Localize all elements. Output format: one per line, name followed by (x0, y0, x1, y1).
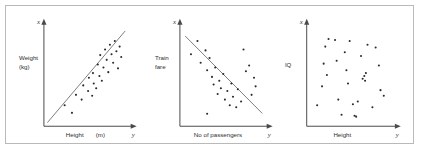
y-axis-tag: x (172, 18, 177, 26)
data-point (248, 64, 250, 66)
data-point (64, 104, 66, 106)
data-points-group (64, 40, 123, 114)
data-point (326, 74, 328, 76)
data-point (112, 62, 114, 64)
data-point (378, 64, 380, 66)
data-point (375, 47, 377, 49)
data-point (341, 114, 343, 116)
data-point (119, 46, 121, 48)
chart-weight-vs-height: x y Weight (kg) Height (m) (6, 6, 142, 143)
data-point (224, 99, 226, 101)
data-point (82, 84, 84, 86)
data-point (321, 85, 323, 87)
x-axis-label: Height (334, 131, 352, 138)
data-point (107, 71, 109, 73)
data-point (222, 73, 224, 75)
data-point (355, 116, 357, 118)
data-point (253, 77, 255, 79)
data-point (336, 60, 338, 62)
x-axis-tag: y (395, 131, 400, 138)
x-axis-arrow-icon (131, 124, 137, 129)
figure-panel: x y Weight (kg) Height (m) x y (5, 5, 414, 144)
data-point (93, 82, 95, 84)
data-point (346, 69, 348, 71)
data-point (380, 89, 382, 91)
data-point (242, 48, 244, 50)
data-point (216, 93, 218, 95)
y-axis-arrow-icon (41, 19, 46, 25)
data-point (347, 82, 349, 84)
data-point (88, 77, 90, 79)
data-point (230, 82, 232, 84)
data-point (95, 87, 97, 89)
x-axis-arrow-icon (395, 124, 401, 129)
data-point (99, 54, 101, 56)
data-point (212, 83, 214, 85)
data-point (109, 44, 111, 46)
data-point (226, 90, 228, 92)
data-point (362, 78, 364, 80)
y-axis-label: IQ (285, 61, 292, 68)
data-point (250, 94, 252, 96)
data-point (92, 72, 94, 74)
scatter-plot-no-correlation: x y IQ Height (277, 6, 413, 143)
data-point (110, 53, 112, 55)
data-point (199, 62, 201, 64)
chart-iq-vs-height: x y IQ Height (277, 6, 413, 143)
y-axis-unit: fare (155, 63, 166, 70)
data-point (325, 46, 327, 48)
data-point (211, 76, 213, 78)
data-point (114, 40, 116, 42)
scatter-plot-negative-correlation: x y Train fare No of passengers (142, 6, 278, 143)
data-point (364, 75, 366, 77)
x-axis-tag: y (131, 131, 136, 139)
data-point (196, 40, 198, 42)
y-axis-tag: x (299, 18, 304, 25)
data-point (206, 69, 208, 71)
data-point (334, 39, 336, 41)
y-axis-arrow-icon (177, 19, 182, 25)
y-axis-label: Train (155, 54, 169, 61)
data-point (218, 80, 220, 82)
axes-group (304, 19, 401, 129)
data-point (208, 57, 210, 59)
data-point (91, 95, 93, 97)
data-point (214, 66, 216, 68)
data-point (328, 38, 330, 40)
data-point (344, 51, 346, 53)
data-point (357, 100, 359, 102)
data-point (254, 85, 256, 87)
data-point (323, 63, 325, 65)
data-point (75, 94, 77, 96)
data-point (106, 59, 108, 61)
data-point (360, 55, 362, 57)
data-point (367, 44, 369, 46)
charts-row: x y Weight (kg) Height (m) x y (6, 6, 413, 143)
trend-line (47, 31, 125, 123)
data-point (71, 112, 73, 114)
x-axis-arrow-icon (266, 124, 272, 129)
chart-trainfare-vs-passengers: x y Train fare No of passengers (142, 6, 278, 143)
data-point (365, 72, 367, 74)
data-point (220, 87, 222, 89)
data-point (101, 80, 103, 82)
scatter-plot-positive-correlation: x y Weight (kg) Height (m) (6, 6, 142, 143)
x-axis-tag: y (266, 131, 271, 139)
data-point (349, 40, 351, 42)
data-point (97, 64, 99, 66)
y-axis-label: Weight (19, 54, 38, 61)
data-point (102, 66, 104, 68)
data-point (87, 90, 89, 92)
data-point (120, 56, 122, 58)
data-point (115, 50, 117, 52)
data-point (81, 99, 83, 101)
data-point (372, 106, 374, 108)
x-axis-unit: (m) (96, 131, 105, 138)
y-axis-arrow-icon (304, 19, 309, 25)
data-point (190, 53, 192, 55)
data-point (352, 103, 354, 105)
y-axis-unit: (kg) (19, 63, 30, 70)
x-axis-label: No of passengers (194, 131, 242, 138)
x-axis-label: Height (66, 131, 84, 138)
data-point (232, 96, 234, 98)
